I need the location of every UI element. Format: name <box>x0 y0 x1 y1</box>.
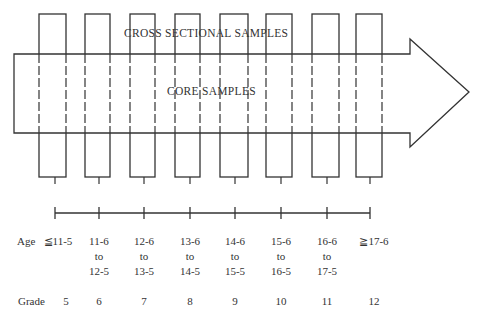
age-line: 11-6 <box>77 234 121 249</box>
age-line: 17-5 <box>305 264 349 279</box>
age-line: 13-6 <box>168 234 212 249</box>
age-range-label: 13-6to14-5 <box>168 234 212 279</box>
age-line: 12-6 <box>122 234 166 249</box>
age-line: ≦11-5 <box>36 234 80 249</box>
age-range-label: 11-6to12-5 <box>77 234 121 279</box>
age-line: to <box>213 249 257 264</box>
age-range-label: 15-6to16-5 <box>259 234 303 279</box>
age-range-label: 16-6to17-5 <box>305 234 349 279</box>
grade-value: 11 <box>305 294 349 309</box>
grade-value: 6 <box>77 294 121 309</box>
age-label: Age <box>17 234 35 249</box>
grade-label: Grade <box>18 294 45 309</box>
age-line: 15-6 <box>259 234 303 249</box>
age-line: 13-5 <box>122 264 166 279</box>
grade-value: 7 <box>122 294 166 309</box>
grade-value: 12 <box>352 294 396 309</box>
age-line: to <box>122 249 166 264</box>
age-line: to <box>259 249 303 264</box>
grade-value: 8 <box>168 294 212 309</box>
grade-value: 10 <box>259 294 303 309</box>
age-line: 16-6 <box>305 234 349 249</box>
age-line: to <box>77 249 121 264</box>
age-line: ≧17-6 <box>352 234 396 249</box>
age-timeline <box>55 177 370 219</box>
age-line: to <box>305 249 349 264</box>
age-line: 14-6 <box>213 234 257 249</box>
age-line: 15-5 <box>213 264 257 279</box>
core-samples-label: CORE SAMPLES <box>167 85 256 97</box>
age-line: 12-5 <box>77 264 121 279</box>
age-range-label: ≦11-5 <box>36 234 80 249</box>
age-range-label: 14-6to15-5 <box>213 234 257 279</box>
age-line: to <box>168 249 212 264</box>
grade-value: 9 <box>213 294 257 309</box>
cross-sectional-label: CROSS SECTIONAL SAMPLES <box>124 27 288 39</box>
age-range-label: ≧17-6 <box>352 234 396 249</box>
age-line: 14-5 <box>168 264 212 279</box>
age-range-label: 12-6to13-5 <box>122 234 166 279</box>
age-line: 16-5 <box>259 264 303 279</box>
